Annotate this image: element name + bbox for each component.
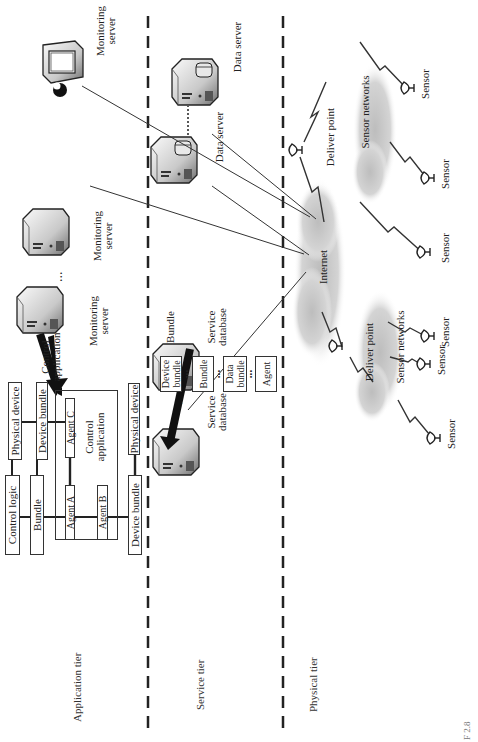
sensor-label-6: Sensor [446, 414, 457, 454]
data-server-label-1: Data server [214, 107, 225, 167]
service-database-label-1: Service database [206, 297, 228, 357]
stack-data-bundle-box: Data bundle [223, 356, 247, 392]
stack-bundle-box: Bundle [192, 356, 214, 392]
sensor-label-5: Sensor [436, 340, 447, 380]
sensor-networks-label-1: Sensor networks [360, 72, 371, 152]
bundle-arrow-label: Bundle [165, 302, 176, 352]
sensor-label-2: Sensor [440, 154, 451, 194]
sensor-networks-label-2: Sensor networks [395, 307, 406, 387]
stack-device-bundle-box: Device bundle [160, 356, 182, 392]
device-bundle-bottom-box: Device bundle [128, 475, 142, 555]
internet-label: Internet [318, 242, 329, 292]
stack-agent-box: Agent [255, 356, 277, 392]
agent-c-box: Agent C [65, 398, 75, 458]
control-application-label: Control application [40, 327, 62, 387]
stack-separator-2: ••• [214, 362, 225, 386]
physical-tier-label: Physical tier [308, 657, 319, 712]
svg-text:...: ... [50, 272, 65, 283]
deliver-point-label-2: Deliver point [364, 317, 375, 387]
application-tier-label: Application tier [72, 653, 83, 722]
deliver-point-label-1: Deliver point [325, 102, 336, 172]
monitoring-server-label-3: Monitoring server [95, 0, 117, 62]
figure-caption-fragment: F 2.8 [462, 721, 472, 740]
physical-device-top-box: Physical device [8, 382, 22, 460]
data-server-label-2: Data server [232, 17, 243, 77]
diagram-canvas: ... ... [0, 0, 478, 742]
sensor-label-1: Sensor [420, 64, 431, 104]
physical-device-bottom-box: Physical device [128, 383, 140, 455]
service-tier-label: Service tier [195, 660, 206, 710]
stack-separator-3: ••• [246, 362, 257, 386]
control-application-box-label: Control application [84, 402, 106, 472]
stack-separator-1: ••• [182, 362, 193, 386]
sensor-label-3: Sensor [440, 228, 451, 268]
control-logic-box: Control logic [5, 475, 20, 555]
agent-a-box: Agent A [65, 485, 75, 540]
monitoring-server-label-1: Monitoring server [88, 290, 110, 352]
bundle-box: Bundle [30, 475, 44, 555]
device-bundle-top-box: Device bundle [36, 382, 48, 460]
agent-b-box: Agent B [97, 485, 108, 540]
monitoring-server-label-2: Monitoring server [92, 205, 114, 267]
